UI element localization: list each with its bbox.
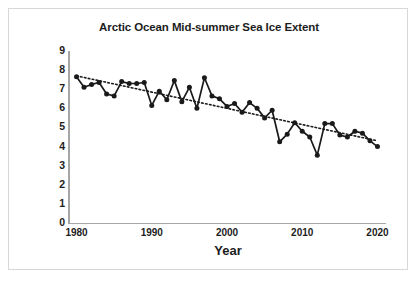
data-point (285, 132, 290, 137)
data-point (307, 135, 312, 140)
x-axis-title: Year (69, 243, 387, 258)
data-point (352, 129, 357, 134)
plot-area (69, 51, 385, 223)
data-point (315, 153, 320, 158)
y-axis-tick-label: 2 (39, 178, 65, 190)
data-point (74, 74, 79, 79)
x-axis-tick-label: 1980 (55, 227, 99, 238)
y-axis-tick-label: 3 (39, 159, 65, 171)
data-point (240, 110, 245, 115)
data-point (194, 106, 199, 111)
data-point (157, 89, 162, 94)
y-axis-tick-label: 8 (39, 63, 65, 75)
data-point (225, 104, 230, 109)
chart-frame: Arctic Ocean Mid-summer Sea Ice Extent M… (8, 8, 408, 270)
data-point (217, 96, 222, 101)
data-point (97, 80, 102, 85)
data-point (164, 97, 169, 102)
data-point (277, 139, 282, 144)
data-series-line (77, 77, 378, 155)
x-axis-tick-label: 2020 (355, 227, 399, 238)
data-point (337, 133, 342, 138)
data-point (104, 92, 109, 97)
data-point (209, 93, 214, 98)
data-point (89, 82, 94, 87)
y-axis-tick-label: 1 (39, 197, 65, 209)
chart-canvas (69, 51, 385, 223)
data-point (119, 79, 124, 84)
x-axis-tick-label: 2000 (205, 227, 249, 238)
y-axis-tick-label: 4 (39, 140, 65, 152)
data-point (300, 129, 305, 134)
data-point (127, 81, 132, 86)
data-point (187, 85, 192, 90)
data-point (330, 121, 335, 126)
data-point (112, 93, 117, 98)
data-point (134, 81, 139, 86)
data-point (270, 108, 275, 113)
x-axis-tick-label: 1990 (130, 227, 174, 238)
data-point (255, 106, 260, 111)
data-point (375, 144, 380, 149)
y-axis-tick-label: 5 (39, 120, 65, 132)
data-point (262, 115, 267, 120)
y-axis-tick-label: 6 (39, 101, 65, 113)
data-point (247, 100, 252, 105)
data-point (142, 80, 147, 85)
data-point (172, 78, 177, 83)
data-point (232, 101, 237, 106)
y-axis-tick-label: 9 (39, 44, 65, 56)
data-point (149, 103, 154, 108)
y-axis-tick-label: 7 (39, 82, 65, 94)
data-series-markers (74, 74, 380, 157)
data-point (345, 135, 350, 140)
data-point (367, 138, 372, 143)
data-point (322, 121, 327, 126)
data-point (360, 131, 365, 136)
x-axis-tick-label: 2010 (280, 227, 324, 238)
data-point (292, 120, 297, 125)
chart-title: Arctic Ocean Mid-summer Sea Ice Extent (9, 21, 409, 33)
data-point (202, 75, 207, 80)
data-point (82, 85, 87, 90)
data-point (179, 99, 184, 104)
